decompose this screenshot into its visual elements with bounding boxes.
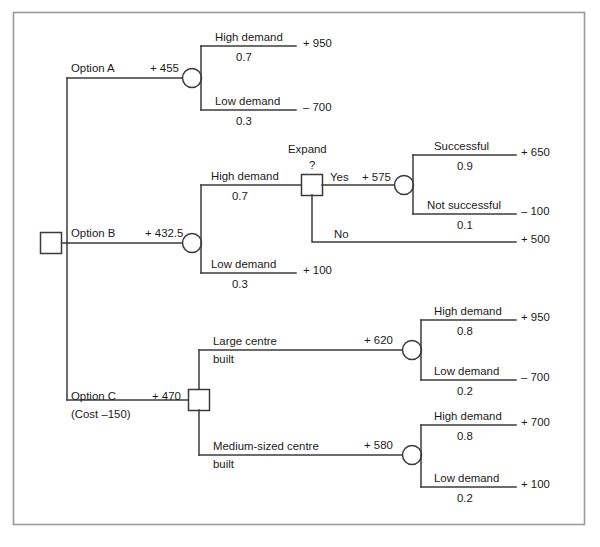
expand-successful-prob-label: 0.9 xyxy=(457,160,473,172)
option-a-high-demand-label: High demand xyxy=(215,31,283,43)
medium-low-demand-label: Low demand xyxy=(434,472,499,484)
expand-title-label: Expand xyxy=(288,143,327,155)
medium-high-prob-label: 0.8 xyxy=(457,430,473,442)
option-b-chance-node xyxy=(183,234,202,253)
expand-not-successful-prob-label: 0.1 xyxy=(457,219,473,231)
expand-successful-payoff-label: + 650 xyxy=(521,146,550,158)
expand-yes-label: Yes xyxy=(330,171,349,183)
medium-low-prob-label: 0.2 xyxy=(457,492,473,504)
option-c-ev-label: + 470 xyxy=(152,390,181,402)
large-high-prob-label: 0.8 xyxy=(457,325,473,337)
expand-chance-node xyxy=(395,176,414,195)
medium-high-payoff-label: + 700 xyxy=(521,416,550,428)
option-c-label: Option C xyxy=(71,390,116,402)
large-centre-label-line2: built xyxy=(213,353,235,365)
option-b-low-payoff-label: + 100 xyxy=(303,264,332,276)
option-a-low-payoff-label: – 700 xyxy=(303,101,332,113)
option-a-chance-node xyxy=(183,69,202,88)
large-centre-chance-node xyxy=(403,341,422,360)
decision-tree-figure: Option A + 455 High demand 0.7 + 950 Low… xyxy=(0,0,600,547)
medium-centre-chance-node xyxy=(403,446,422,465)
decision-tree-svg: Option A + 455 High demand 0.7 + 950 Low… xyxy=(0,0,600,547)
large-low-payoff-label: – 700 xyxy=(521,371,550,383)
expand-decision-node xyxy=(302,175,323,196)
expand-not-successful-label: Not successful xyxy=(427,199,501,211)
root-decision-node xyxy=(41,233,62,254)
option-b-high-prob-label: 0.7 xyxy=(232,190,248,202)
expand-not-successful-payoff-label: – 100 xyxy=(521,205,550,217)
option-b-low-prob-label: 0.3 xyxy=(232,278,248,290)
option-b-ev-label: + 432.5 xyxy=(145,227,183,239)
option-c-cost-label: (Cost –150) xyxy=(71,408,131,420)
medium-low-payoff-label: + 100 xyxy=(521,478,550,490)
expand-successful-label: Successful xyxy=(434,140,489,152)
option-b-high-demand-label: High demand xyxy=(211,170,279,182)
option-a-low-prob-label: 0.3 xyxy=(236,115,252,127)
large-centre-label-line1: Large centre xyxy=(213,335,277,347)
expand-question-mark-label: ? xyxy=(309,159,315,171)
expand-yes-ev-label: + 575 xyxy=(362,171,391,183)
option-a-low-demand-label: Low demand xyxy=(215,95,280,107)
option-c-decision-node xyxy=(189,390,210,411)
large-high-demand-label: High demand xyxy=(434,305,502,317)
medium-high-demand-label: High demand xyxy=(434,410,502,422)
large-low-prob-label: 0.2 xyxy=(457,385,473,397)
option-b-low-demand-label: Low demand xyxy=(211,258,276,270)
large-centre-ev-label: + 620 xyxy=(364,334,393,346)
medium-centre-ev-label: + 580 xyxy=(364,439,393,451)
medium-centre-label-line1: Medium-sized centre xyxy=(213,440,319,452)
option-a-label: Option A xyxy=(71,62,115,74)
option-a-high-prob-label: 0.7 xyxy=(236,51,252,63)
expand-no-payoff-label: + 500 xyxy=(521,233,550,245)
large-high-payoff-label: + 950 xyxy=(521,311,550,323)
option-b-label: Option B xyxy=(71,227,115,239)
figure-caption xyxy=(88,534,558,545)
large-low-demand-label: Low demand xyxy=(434,365,499,377)
medium-centre-label-line2: built xyxy=(213,458,235,470)
option-a-ev-label: + 455 xyxy=(150,62,179,74)
expand-no-label: No xyxy=(334,228,349,240)
option-a-high-payoff-label: + 950 xyxy=(303,37,332,49)
